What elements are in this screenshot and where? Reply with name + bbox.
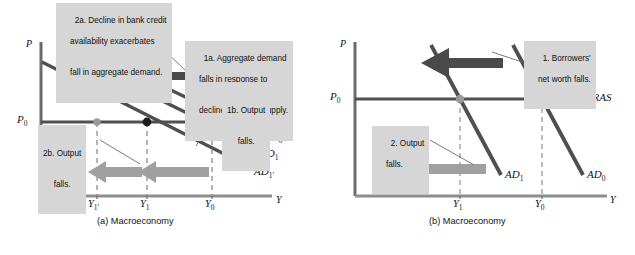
callout-2a-line3: fall in aggregate demand. xyxy=(61,68,167,78)
curve-label-ad1-b: AD1 xyxy=(505,168,523,183)
panel-macroeconomy-b: P Y P0 Y1 Y0 SRAS AD1 AD0 1. Borrowers' … xyxy=(317,0,635,255)
price-level-p-b: P xyxy=(330,90,337,102)
tick-label-y1-b: Y1 xyxy=(453,198,463,212)
callout-2-b: 2. Output falls. xyxy=(372,126,429,194)
tick-y1-prime-sub: 1' xyxy=(94,203,99,212)
output-arrow-y0-to-y1-a xyxy=(138,161,209,183)
callout-2-b-line2: falls. xyxy=(377,160,424,170)
callout-2b: 2b. Output falls. xyxy=(38,125,86,214)
leader-line-2b xyxy=(100,140,140,164)
price-level-sub-b: 0 xyxy=(337,96,341,105)
y-axis-label-a: P xyxy=(26,38,32,49)
price-level-label-a: P0 xyxy=(17,113,27,128)
x-axis-label-b: Y xyxy=(610,194,616,205)
curve-ad1-sub-b: 1 xyxy=(520,174,524,183)
tick-label-y1-a: Y1 xyxy=(140,198,150,212)
price-level-sub-a: 0 xyxy=(24,119,28,128)
panel-macroeconomy-a: P Y P0 Y1' Y1 Y0 SRAS AD0 AD1 AD1' 2a. D… xyxy=(0,0,318,255)
callout-2b-line1: 2b. Output xyxy=(43,149,81,159)
equilibrium-point-y1-prime-a xyxy=(93,118,101,126)
callout-1b-line1: 1b. Output xyxy=(227,106,265,116)
equilibrium-point-y1-a xyxy=(143,118,152,127)
curve-ad0-text-b: AD xyxy=(587,168,602,180)
price-level-p-a: P xyxy=(17,113,24,125)
callout-2a-line1: 2a. Decline in bank credit xyxy=(75,16,167,25)
callout-2a-line2: availability exacerbates xyxy=(61,37,167,47)
callout-1-b-line1: 1. Borrowers' xyxy=(543,54,591,63)
callout-1b-line2: falls. xyxy=(227,137,265,147)
tick-y0-sub-b: 0 xyxy=(541,203,545,212)
callout-2a: 2a. Decline in bank credit availability … xyxy=(56,3,172,103)
callout-2-b-line1: 2. Output xyxy=(391,139,425,148)
tick-y1-sub-b: 1 xyxy=(459,203,463,212)
x-axis-label-a: Y xyxy=(276,194,282,205)
price-level-label-b: P0 xyxy=(330,90,340,105)
curve-label-ad0-b: AD0 xyxy=(587,168,605,183)
panel-b-caption: (b) Macroeconomy xyxy=(429,216,506,226)
tick-label-y0-b: Y0 xyxy=(535,198,545,212)
tick-label-y1-prime-a: Y1' xyxy=(88,198,99,212)
callout-1-b: 1. Borrowers' net worth falls. xyxy=(524,41,596,109)
equilibrium-point-y1-b xyxy=(456,95,464,103)
curve-ad1-text-b: AD xyxy=(505,168,520,180)
y-axis-label-b: P xyxy=(340,38,346,49)
curve-ad1-sub-a: 1 xyxy=(275,153,279,162)
economics-figure: P Y P0 Y1' Y1 Y0 SRAS AD0 AD1 AD1' 2a. D… xyxy=(0,0,635,255)
callout-1-b-line2: net worth falls. xyxy=(529,75,591,85)
tick-y0-sub: 0 xyxy=(211,203,215,212)
output-arrow-y1-to-y1prime-a xyxy=(88,161,142,183)
callout-2b-line2: falls. xyxy=(43,180,81,190)
tick-y1-sub: 1 xyxy=(146,203,150,212)
leader-line-2-b xyxy=(430,140,474,165)
curve-ad0-sub-b: 0 xyxy=(602,174,606,183)
curve-ad1prime-sub-a: 1' xyxy=(269,171,274,180)
tick-label-y0-a: Y0 xyxy=(205,198,215,212)
panel-a-caption: (a) Macroeconomy xyxy=(97,216,174,226)
callout-1b: 1b. Output falls. xyxy=(222,82,270,171)
callout-1a-line1: 1a. Aggregate demand xyxy=(204,54,287,63)
